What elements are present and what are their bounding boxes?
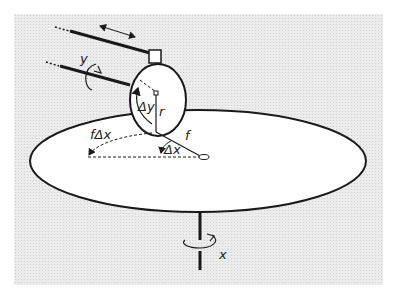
wheel-hub [154,91,158,95]
wheel-bracket [149,50,161,63]
wheel-and-disc-integrator-diagram: y Δy r fΔx f Δx x [0,0,395,292]
x-label: x [218,247,227,262]
contact-point [199,155,209,160]
y-label: y [79,51,88,66]
f-delta-x-label: fΔx [90,127,111,142]
delta-y-label: Δy [137,99,155,114]
rotating-disc [30,110,366,212]
delta-x-label: Δx [163,142,181,157]
